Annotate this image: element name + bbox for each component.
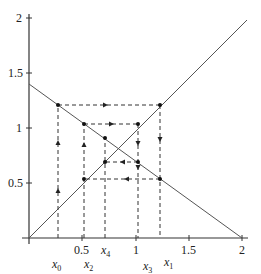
x-tick-label-2: 2 [239,243,245,257]
point-f-x2 [82,122,86,126]
point-diag-x2 [82,177,86,181]
arrow-down-icon [158,137,163,142]
axes [22,14,248,244]
arrow-down-icon [136,141,141,146]
point-f-x3 [136,160,140,164]
cobweb-diagram: 0.5 1 1.5 2 0.5 1 1.5 2 [0,0,261,274]
point-diag-x1 [158,103,162,107]
y-tick-label-1: 1 [16,121,22,135]
x-tick-label-1.5: 1.5 [181,243,196,257]
arrow-up-icon [82,142,87,147]
x-tick-label-1: 1 [133,243,139,257]
arrow-down-icon [136,165,141,170]
point-f-x1 [158,177,162,181]
decreasing-line [29,84,242,238]
x-tick-label-0.5: 0.5 [74,243,89,257]
arrow-left-icon [120,160,125,165]
point-f-x4 [103,136,107,140]
arrow-up-icon [56,188,61,193]
label-x4: x4 [100,243,110,259]
y-tick-label-1.5: 1.5 [8,66,23,80]
point-diag-x3 [136,122,140,126]
y-tick-label-0.5: 0.5 [8,176,23,190]
y-tick-label-2: 2 [16,11,22,25]
label-x1: x1 [163,255,173,271]
label-x3: x3 [142,259,152,274]
identity-line [29,20,247,238]
label-x0: x0 [51,257,61,273]
arrow-up-icon [56,140,61,145]
arrow-left-icon [124,177,129,182]
label-x2: x2 [83,257,93,273]
point-f-x0 [56,103,60,107]
arrow-right-icon [103,103,108,108]
arrow-right-icon [109,122,114,127]
point-diag-x4 [103,160,107,164]
